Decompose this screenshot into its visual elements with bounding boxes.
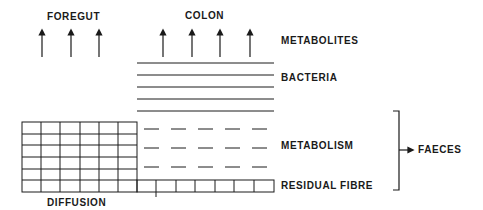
fibre-digestion-diagram: FOREGUT COLON METABOLITES BACTERIA METAB… (0, 0, 483, 210)
label-bacteria: BACTERIA (281, 72, 337, 84)
label-metabolites: METABOLITES (281, 35, 359, 47)
metabolism-dashes (144, 129, 274, 167)
faeces-bracket (393, 111, 411, 190)
residual-fibre-strip (137, 180, 274, 197)
colon-arrows (163, 32, 250, 57)
bacteria-lines (137, 63, 274, 111)
diagram-canvas (0, 0, 483, 210)
label-colon: COLON (185, 10, 224, 22)
label-residual-fibre: RESIDUAL FIBRE (281, 180, 373, 192)
label-foregut: FOREGUT (47, 11, 100, 23)
label-diffusion: DIFFUSION (47, 197, 106, 209)
diffusion-grid (22, 122, 137, 192)
label-metabolism: METABOLISM (281, 140, 353, 152)
foregut-arrows (42, 32, 99, 57)
label-faeces: FAECES (418, 144, 462, 156)
